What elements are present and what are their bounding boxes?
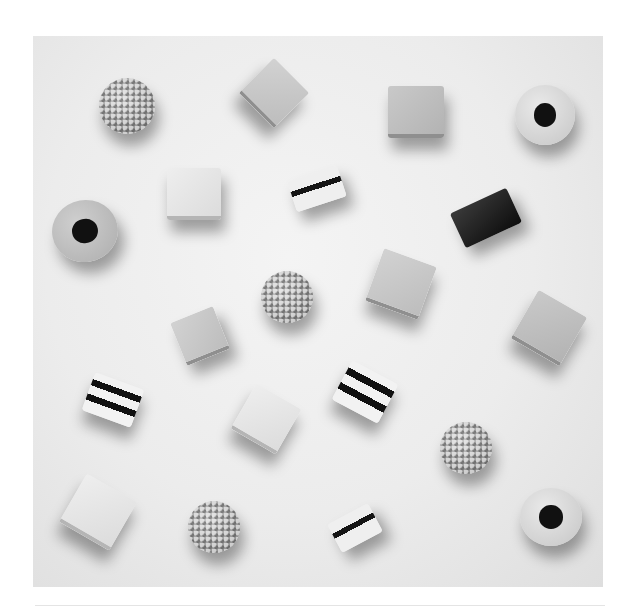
liquorice-center: [70, 217, 99, 246]
ring-candy: [515, 85, 575, 145]
square-candy: [167, 168, 221, 220]
nonpareil-ball-candy: [261, 271, 313, 323]
striped-candy: [287, 166, 346, 213]
striped-candy: [332, 360, 399, 423]
ring-candy: [47, 195, 123, 268]
liquorice-center: [539, 505, 563, 528]
nonpareil-ball-candy: [99, 78, 155, 134]
square-candy: [170, 306, 230, 366]
nonpareil-ball-candy: [188, 501, 240, 553]
nonpareil-ball-candy: [440, 422, 492, 474]
candy-photo: [33, 36, 603, 587]
liquorice-center: [534, 103, 557, 127]
square-candy: [388, 86, 444, 138]
square-candy: [230, 383, 301, 454]
liquorice-block-candy: [450, 188, 522, 249]
divider: [35, 605, 605, 606]
square-candy: [239, 58, 310, 129]
square-candy: [365, 248, 437, 320]
square-candy: [59, 473, 137, 550]
square-candy: [511, 290, 587, 366]
striped-candy: [327, 503, 383, 553]
ring-candy: [520, 488, 582, 546]
striped-candy: [82, 372, 145, 427]
